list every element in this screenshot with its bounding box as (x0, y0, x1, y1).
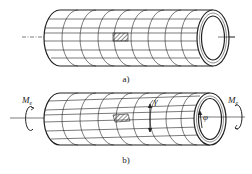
torque-label-left: Me (21, 95, 33, 106)
twist-angle-label: φ (203, 112, 208, 122)
torque-label-right: Me (227, 95, 239, 106)
surface-element-hatched (113, 33, 128, 41)
torque-arrow-left (26, 107, 33, 131)
circumferential-lines (62, 10, 197, 66)
caption-a: a) (123, 74, 130, 84)
panel-b (10, 93, 245, 145)
tube-left-end (44, 10, 60, 66)
shear-angle-label: γ (154, 96, 158, 106)
torsion-diagram: a) (0, 0, 252, 174)
panel-a (22, 10, 235, 66)
surface-element-sheared (113, 114, 130, 122)
caption-b: b) (122, 155, 130, 165)
